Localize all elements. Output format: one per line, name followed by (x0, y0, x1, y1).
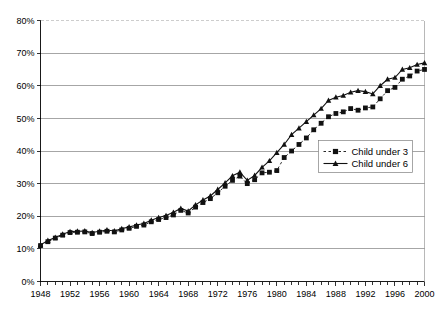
y-tick-label-40: 40% (16, 146, 34, 156)
chart-legend[interactable]: Child under 3Child under 6 (319, 141, 413, 173)
data-point-1995 (385, 88, 390, 93)
data-point-1985 (311, 127, 316, 132)
data-point-1998 (407, 74, 412, 79)
data-point-1970 (200, 197, 206, 202)
data-point-1990 (348, 106, 353, 111)
y-tick-label-0: 0% (21, 277, 34, 287)
data-point-1977 (252, 177, 257, 182)
data-point-1996 (393, 85, 398, 90)
data-point-1993 (370, 105, 375, 110)
data-point-1983 (297, 142, 302, 147)
y-tick-label-20: 20% (16, 211, 34, 221)
data-point-1975 (237, 169, 243, 174)
data-point-1992 (363, 106, 368, 111)
line-chart: 0%10%20%30%40%50%60%70%80% 1948195219561… (0, 0, 440, 309)
data-point-1994 (378, 96, 383, 101)
y-tick-label-60: 60% (16, 81, 34, 91)
gridlines-group (41, 21, 425, 249)
x-tick-label-1992: 1992 (355, 289, 375, 299)
legend-swatch-square-icon (333, 149, 338, 154)
x-tick-label-1988: 1988 (326, 289, 346, 299)
y-tick-label-30: 30% (16, 179, 34, 189)
data-point-1984 (304, 136, 309, 141)
data-point-1966 (171, 209, 177, 214)
data-point-1981 (282, 155, 287, 160)
x-tick-label-1976: 1976 (237, 289, 257, 299)
y-tick-label-10: 10% (16, 244, 34, 254)
data-point-1987 (326, 114, 331, 119)
data-point-1969 (193, 202, 199, 207)
legend-label-1: Child under 3 (352, 146, 409, 157)
x-tick-labels-group: 1948195219561960196419681972197619801984… (30, 289, 434, 299)
y-tick-label-50: 50% (16, 114, 34, 124)
data-point-1974 (230, 173, 236, 178)
x-tick-label-1960: 1960 (119, 289, 139, 299)
x-tick-label-2000: 2000 (414, 289, 434, 299)
y-tick-label-70: 70% (16, 48, 34, 58)
data-point-1980 (274, 168, 279, 173)
data-point-1974 (230, 178, 235, 183)
data-point-1988 (333, 111, 338, 116)
data-point-1989 (341, 109, 346, 114)
x-tick-label-1952: 1952 (60, 289, 80, 299)
chart-container: 0%10%20%30%40%50%60%70%80% 1948195219561… (0, 0, 440, 309)
data-point-1999 (415, 69, 420, 74)
x-tick-label-1980: 1980 (267, 289, 287, 299)
data-point-2000 (422, 60, 428, 65)
x-tick-label-1972: 1972 (208, 289, 228, 299)
data-point-2000 (422, 67, 427, 72)
data-point-1986 (319, 121, 324, 126)
legend-label-2: Child under 6 (352, 158, 409, 169)
data-point-1982 (289, 149, 294, 154)
data-point-1991 (356, 108, 361, 113)
data-point-1978 (260, 170, 265, 175)
x-tick-label-1968: 1968 (178, 289, 198, 299)
data-point-1991 (355, 88, 361, 93)
y-tick-labels-group: 0%10%20%30%40%50%60%70%80% (16, 16, 34, 287)
x-tick-label-1964: 1964 (149, 289, 169, 299)
x-tick-label-1948: 1948 (30, 289, 50, 299)
x-tick-label-1956: 1956 (90, 289, 110, 299)
data-point-1997 (400, 77, 405, 82)
x-tick-label-1996: 1996 (385, 289, 405, 299)
y-tick-label-80: 80% (16, 16, 34, 26)
x-tick-label-1984: 1984 (296, 289, 316, 299)
data-point-1979 (267, 170, 272, 175)
